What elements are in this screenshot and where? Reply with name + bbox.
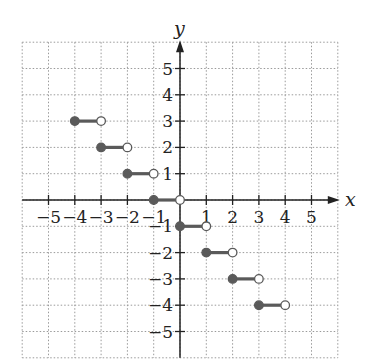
closed-dot-icon xyxy=(202,248,211,257)
x-tick-label: −2 xyxy=(115,207,140,227)
step-segment xyxy=(202,248,237,257)
y-tick-label: 5 xyxy=(162,59,173,79)
step-segment xyxy=(255,301,290,310)
y-tick-label: −1 xyxy=(148,216,173,236)
x-tick-label: −3 xyxy=(89,207,114,227)
open-dot-icon xyxy=(97,117,106,126)
y-tick-label: 1 xyxy=(162,164,173,184)
closed-dot-icon xyxy=(123,169,132,178)
x-tick-label: 5 xyxy=(306,207,317,227)
x-tick-label: −5 xyxy=(36,207,61,227)
open-dot-icon xyxy=(281,301,290,310)
x-tick-label: 3 xyxy=(253,207,264,227)
y-tick-label: 2 xyxy=(162,137,173,157)
x-tick-label: 2 xyxy=(227,207,238,227)
closed-dot-icon xyxy=(176,222,185,231)
step-segment xyxy=(97,143,132,152)
open-dot-icon xyxy=(176,196,185,205)
y-axis-label: y xyxy=(173,17,185,39)
step-segment xyxy=(228,275,263,284)
closed-dot-icon xyxy=(97,143,106,152)
y-tick-label: 3 xyxy=(162,111,173,131)
open-dot-icon xyxy=(123,143,132,152)
step-segment xyxy=(176,222,211,231)
step-segment xyxy=(149,196,184,205)
y-tick-label: −2 xyxy=(148,243,173,263)
open-dot-icon xyxy=(255,275,264,284)
step-segment xyxy=(71,117,106,126)
x-tick-label: −4 xyxy=(62,207,87,227)
closed-dot-icon xyxy=(228,275,237,284)
closed-dot-icon xyxy=(149,196,158,205)
x-tick-label: 4 xyxy=(280,207,291,227)
y-tick-label: −4 xyxy=(148,295,173,315)
closed-dot-icon xyxy=(255,301,264,310)
x-axis-label: x xyxy=(345,188,356,210)
open-dot-icon xyxy=(228,248,237,257)
step-segment xyxy=(123,169,158,178)
y-tick-label: 4 xyxy=(162,85,173,105)
y-tick-label: −5 xyxy=(148,322,173,342)
closed-dot-icon xyxy=(71,117,80,126)
open-dot-icon xyxy=(202,222,211,231)
step-function-chart: −5−4−3−2−112345−5−4−3−2−112345 x y xyxy=(0,0,382,361)
y-tick-label: −3 xyxy=(148,269,173,289)
open-dot-icon xyxy=(149,169,158,178)
